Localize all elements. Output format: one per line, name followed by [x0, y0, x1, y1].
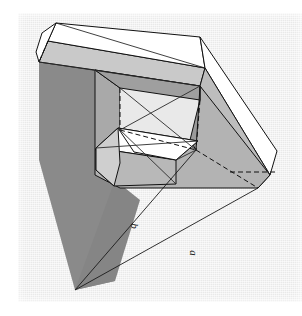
- scanned-page: 270: [0, 0, 302, 316]
- dimension-label-b: b: [129, 223, 141, 229]
- figure-svg: a b: [0, 0, 302, 316]
- dimension-label-a: a: [188, 250, 200, 256]
- figure-drawing: a b: [0, 0, 302, 316]
